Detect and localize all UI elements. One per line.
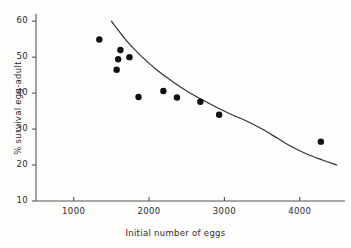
y-tick-label: 60 [2, 15, 28, 25]
data-point [318, 138, 324, 144]
data-point [115, 56, 121, 62]
data-point [96, 36, 102, 42]
x-tick-label: 2000 [129, 206, 169, 216]
y-tick-marks [32, 21, 36, 201]
data-point [126, 54, 132, 60]
figure-scatter-egg-survival: 102030405060 1000200030004000 % survival… [0, 0, 351, 248]
y-tick-label: 10 [2, 195, 28, 205]
data-point [197, 99, 203, 105]
data-point [174, 94, 180, 100]
data-point [216, 111, 222, 117]
axes [36, 14, 345, 201]
data-point [113, 67, 119, 73]
data-point-markers [96, 36, 324, 145]
y-axis-title: % survival egg-adult [13, 43, 23, 173]
x-tick-label: 4000 [280, 206, 320, 216]
x-axis-title: Initial number of eggs [0, 228, 351, 238]
fitted-curve [111, 21, 336, 165]
data-point [135, 94, 141, 100]
data-point [160, 88, 166, 94]
x-tick-label: 3000 [204, 206, 244, 216]
data-point [117, 47, 123, 53]
x-tick-marks [74, 197, 300, 201]
x-tick-label: 1000 [54, 206, 94, 216]
